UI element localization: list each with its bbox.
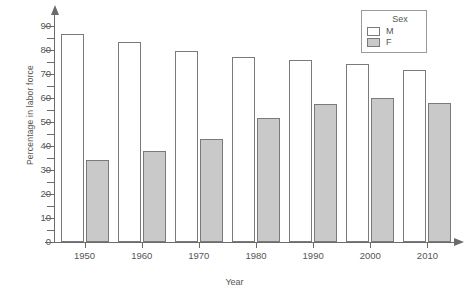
y-tick-label: 40 — [40, 140, 51, 151]
y-tick-label: 80 — [40, 44, 51, 55]
x-tick-label: 1950 — [65, 250, 105, 261]
legend-label-F: F — [386, 37, 392, 47]
y-tick-minor — [47, 230, 55, 231]
y-tick-minor — [47, 110, 55, 111]
y-tick-label: 90 — [40, 20, 51, 31]
y-tick-minor — [47, 134, 55, 135]
y-tick-minor — [47, 38, 55, 39]
x-tick — [256, 242, 257, 248]
bar-1970-F — [200, 139, 223, 242]
y-tick-label: 20 — [40, 188, 51, 199]
x-tick-label: 2010 — [407, 250, 447, 261]
bar-1990-M — [289, 60, 312, 242]
bar-2010-F — [428, 103, 451, 242]
bar-1950-M — [61, 34, 84, 242]
legend-item-F[interactable]: F — [367, 37, 421, 47]
y-tick-label: 50 — [40, 116, 51, 127]
x-tick-label: 1970 — [179, 250, 219, 261]
bar-1980-F — [257, 118, 280, 242]
y-tick-minor — [47, 158, 55, 159]
x-tick-label: 1990 — [293, 250, 333, 261]
bar-1960-M — [118, 42, 141, 242]
y-tick-label: 0 — [46, 236, 51, 247]
x-tick — [370, 242, 371, 248]
bar-1990-F — [314, 104, 337, 242]
y-tick-label: 60 — [40, 92, 51, 103]
bar-2010-M — [403, 70, 426, 242]
y-axis-arrowhead — [51, 5, 59, 15]
legend-item-M[interactable]: M — [367, 26, 421, 36]
legend-swatch-F — [367, 38, 380, 47]
x-tick-label: 2000 — [350, 250, 390, 261]
bar-1970-M — [175, 51, 198, 242]
y-tick-minor — [47, 182, 55, 183]
x-axis-arrowhead — [454, 238, 464, 246]
x-axis-title: Year — [0, 277, 469, 287]
y-tick-minor — [47, 62, 55, 63]
x-axis-line — [54, 242, 454, 243]
y-axis-title: Percentage in labor force — [25, 35, 35, 195]
y-tick-label: 70 — [40, 68, 51, 79]
bar-1950-F — [86, 160, 109, 242]
x-tick — [199, 242, 200, 248]
x-tick — [427, 242, 428, 248]
x-tick-label: 1960 — [122, 250, 162, 261]
x-tick-label: 1980 — [236, 250, 276, 261]
y-tick-minor — [47, 206, 55, 207]
x-tick — [85, 242, 86, 248]
legend-label-M: M — [386, 26, 394, 36]
y-tick-minor — [47, 86, 55, 87]
legend-swatch-M — [367, 27, 380, 36]
bar-chart: Percentage in labor force 01020304050607… — [0, 0, 469, 299]
legend: Sex MF — [361, 10, 427, 53]
x-tick — [313, 242, 314, 248]
bar-1980-M — [232, 57, 255, 242]
y-axis-line — [54, 14, 55, 242]
bar-2000-F — [371, 98, 394, 242]
bar-2000-M — [346, 64, 369, 242]
legend-title: Sex — [367, 14, 421, 24]
legend-entries: MF — [367, 26, 421, 47]
y-tick-label: 10 — [40, 212, 51, 223]
y-tick-label: 30 — [40, 164, 51, 175]
bar-1960-F — [143, 151, 166, 242]
x-tick — [142, 242, 143, 248]
